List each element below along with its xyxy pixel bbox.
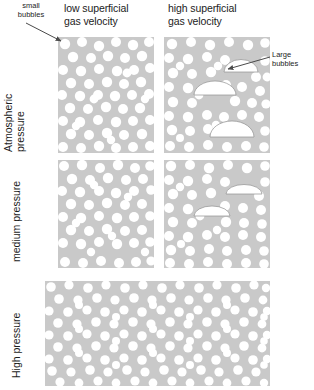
panel-medium-high-velocity — [164, 160, 270, 268]
large-bubble-1 — [226, 185, 262, 195]
panel-medium-low-velocity — [58, 160, 154, 268]
annotation-large-bubbles: Large bubbles — [272, 50, 314, 68]
panel-high-pressure-both-velocities — [45, 281, 270, 386]
small-bubbles-arrow — [26, 23, 61, 41]
annotation-small-bubbles: small bubbles — [8, 1, 54, 19]
panel-atmospheric-high-velocity — [164, 37, 270, 153]
bubble-field-atm-low — [58, 37, 154, 153]
bubble-field-high-wide — [45, 281, 270, 386]
bubble-regime-figure: low superficial gas velocity high superf… — [0, 0, 314, 390]
bubble-field-med-high — [164, 160, 270, 268]
panel-atmospheric-low-velocity — [58, 37, 154, 153]
column-header-low-velocity: low superficial gas velocity — [64, 2, 128, 27]
bubble-field-atm-high — [164, 37, 270, 153]
bubble-field-med-low — [58, 160, 154, 268]
column-header-high-velocity: high superficial gas velocity — [168, 2, 236, 27]
row-label-atmospheric-pressure: Atmospheric pressure — [2, 32, 26, 152]
row-label-medium-pressure: medium pressure — [10, 152, 22, 262]
row-label-high-pressure: High pressure — [10, 268, 22, 378]
